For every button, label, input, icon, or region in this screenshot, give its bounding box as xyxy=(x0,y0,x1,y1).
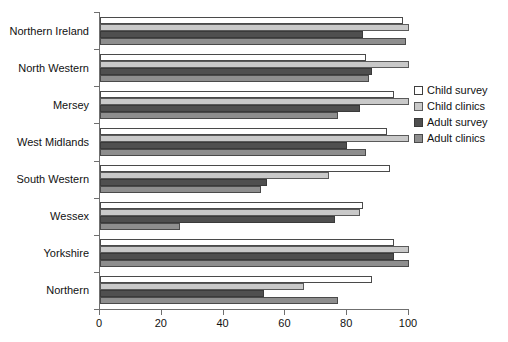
legend-item: Adult clinics xyxy=(414,131,506,145)
bar-group xyxy=(100,54,409,82)
x-tick-label: 80 xyxy=(340,317,352,330)
x-tick-label: 20 xyxy=(155,317,167,330)
plot-area: 020406080100 xyxy=(99,12,408,309)
bar xyxy=(100,61,409,68)
bar xyxy=(100,179,267,186)
bar xyxy=(100,135,409,142)
bar xyxy=(100,253,394,260)
y-axis-label: Northern Ireland xyxy=(10,25,90,37)
bar-group xyxy=(100,276,409,304)
bar-group xyxy=(100,202,409,230)
x-axis-line xyxy=(99,309,409,310)
bar xyxy=(100,246,409,253)
legend-item: Adult survey xyxy=(414,115,506,129)
bar xyxy=(100,283,304,290)
bar-group xyxy=(100,239,409,267)
y-axis-label: North Western xyxy=(18,62,89,74)
chart-legend: Child surveyChild clinicsAdult surveyAdu… xyxy=(414,83,506,147)
legend-item: Child survey xyxy=(414,83,506,97)
legend-label: Adult clinics xyxy=(427,132,485,145)
bar xyxy=(100,68,372,75)
bar xyxy=(100,216,335,223)
y-tick xyxy=(94,12,99,13)
bar xyxy=(100,142,347,149)
bar xyxy=(100,128,387,135)
y-tick xyxy=(94,161,99,162)
bar xyxy=(100,98,409,105)
bar xyxy=(100,260,409,267)
x-tick xyxy=(223,310,224,315)
bar xyxy=(100,239,394,246)
y-tick xyxy=(94,86,99,87)
legend-item: Child clinics xyxy=(414,99,506,113)
bar xyxy=(100,24,409,31)
bar xyxy=(100,54,366,61)
legend-label: Child survey xyxy=(427,84,488,97)
y-axis-label: South Western xyxy=(16,173,89,185)
bar-chart: Northern IrelandNorth WesternMerseyWest … xyxy=(0,0,508,342)
bar-group xyxy=(100,165,409,193)
bar xyxy=(100,31,363,38)
y-axis-label: West Midlands xyxy=(17,136,89,148)
bar xyxy=(100,91,394,98)
y-axis-label: Mersey xyxy=(53,99,89,111)
bar xyxy=(100,276,372,283)
y-tick xyxy=(94,272,99,273)
y-axis-category-labels: Northern IrelandNorth WesternMerseyWest … xyxy=(0,12,95,309)
bar xyxy=(100,186,261,193)
x-tick-label: 60 xyxy=(278,317,290,330)
bar xyxy=(100,112,338,119)
legend-label: Adult survey xyxy=(427,116,488,129)
bar xyxy=(100,202,363,209)
bar xyxy=(100,209,360,216)
bar xyxy=(100,297,338,304)
bar xyxy=(100,290,264,297)
x-tick-label: 100 xyxy=(399,317,417,330)
y-tick xyxy=(94,123,99,124)
bar xyxy=(100,165,390,172)
y-axis-label: Wessex xyxy=(50,210,89,222)
legend-swatch-icon xyxy=(414,102,423,111)
x-tick xyxy=(346,310,347,315)
bar xyxy=(100,149,366,156)
y-axis-label: Yorkshire xyxy=(44,247,89,259)
y-axis-label: Northern xyxy=(46,284,89,296)
y-tick xyxy=(94,235,99,236)
legend-swatch-icon xyxy=(414,118,423,127)
bar-group xyxy=(100,91,409,119)
legend-label: Child clinics xyxy=(427,100,485,113)
x-tick xyxy=(284,310,285,315)
bar xyxy=(100,172,329,179)
legend-swatch-icon xyxy=(414,86,423,95)
bar xyxy=(100,223,180,230)
x-tick-label: 0 xyxy=(96,317,102,330)
bar-group xyxy=(100,17,409,45)
x-tick xyxy=(161,310,162,315)
y-tick xyxy=(94,198,99,199)
legend-swatch-icon xyxy=(414,134,423,143)
bar xyxy=(100,17,403,24)
bar xyxy=(100,105,360,112)
x-tick-label: 40 xyxy=(216,317,228,330)
x-tick xyxy=(408,310,409,315)
bar xyxy=(100,75,369,82)
bar xyxy=(100,38,406,45)
bar-group xyxy=(100,128,409,156)
x-tick xyxy=(99,310,100,315)
y-tick xyxy=(94,49,99,50)
